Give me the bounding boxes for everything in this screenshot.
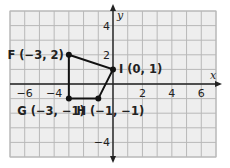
point-label-i: I (0, 1) [119, 62, 162, 76]
point-label-h: H (−1, −1) [76, 104, 144, 118]
y-axis-arrow-down-icon [110, 156, 116, 163]
x-axis-label: x [210, 69, 217, 82]
point-label-g: G (−3, −1) [17, 104, 85, 118]
x-tick-label: 6 [198, 87, 205, 100]
point-f [66, 52, 72, 58]
point-i [110, 66, 116, 72]
point-h [95, 96, 101, 102]
y-tick-label: 2 [103, 49, 110, 62]
y-axis-label: y [116, 9, 124, 22]
point-g [66, 96, 72, 102]
y-tick-label: −4 [94, 136, 110, 149]
x-tick-label: −6 [17, 87, 33, 100]
y-tick-label: 4 [103, 20, 110, 33]
x-tick-label: 2 [139, 87, 146, 100]
point-label-f: F (−3, 2) [7, 48, 63, 62]
coordinate-plane: xy −6−424642−4 F (−3, 2)I (0, 1)H (−1, −… [0, 0, 230, 168]
y-axis-arrow-icon [110, 4, 116, 11]
x-tick-label: 4 [168, 87, 175, 100]
x-tick-label: −4 [46, 87, 62, 100]
